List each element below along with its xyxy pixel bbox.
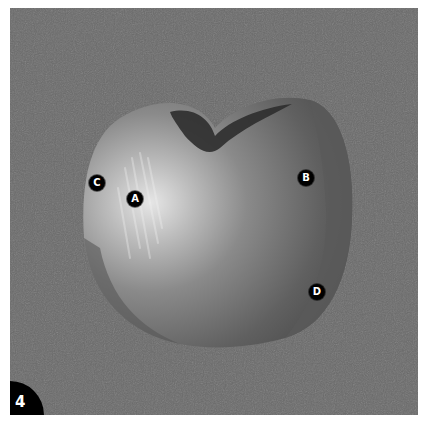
marker-b: B: [298, 170, 314, 186]
apple-illustration: [10, 8, 418, 415]
marker-a: A: [127, 191, 143, 207]
marker-d: D: [309, 284, 325, 300]
step-number: 4: [15, 395, 25, 410]
marker-c: C: [89, 175, 105, 191]
painting-frame: A B C D 4: [10, 8, 418, 415]
